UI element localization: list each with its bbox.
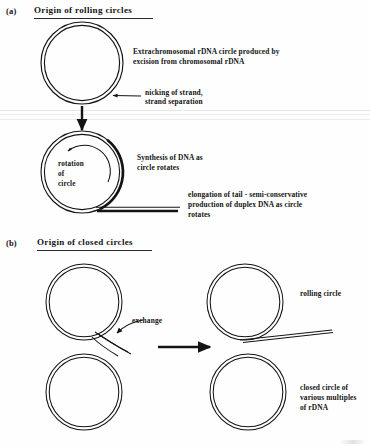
panel-a-heading-rule: [34, 18, 153, 19]
panel-b-heading: Origin of closed circles: [37, 237, 133, 248]
closed-circle-lower-left: [46, 354, 122, 430]
rolling-circle-product: [207, 264, 283, 340]
panel-b-tag: (b): [6, 238, 17, 248]
closed-circle-note-line1: closed circle of: [300, 383, 348, 393]
panel-a-heading: Origin of rolling circles: [34, 5, 132, 16]
closed-circle-upper-left: [46, 264, 122, 340]
strand-exchange-crossing: [92, 332, 131, 356]
nicking-pointer: [113, 96, 141, 97]
rdna-circle: [41, 22, 123, 104]
elongation-note-line2: production of duplex DNA as circle: [188, 200, 302, 210]
rolling-circle-tail: [240, 330, 333, 342]
rotation-note-line1: rotation: [58, 160, 84, 170]
panel-b-heading-rule: [37, 250, 152, 251]
panel-a-tag: (a): [6, 6, 16, 16]
exchange-note: exchange: [132, 316, 162, 326]
extrachromosomal-note-line1: Extrachromosomal rDNA circle produced by: [133, 47, 279, 57]
page-edge-artifact: [340, 440, 366, 444]
elongation-note-line1: elongation of tail - semi-conservative: [188, 190, 307, 200]
diagram-canvas: [0, 0, 370, 446]
closed-circle-product: [210, 354, 286, 430]
duplex-tail: [96, 207, 180, 211]
elongation-note-line3: rotates: [188, 210, 210, 220]
rolling-circle-note: rolling circle: [300, 289, 341, 299]
synthesis-note-line1: Synthesis of DNA as: [137, 153, 203, 163]
rotation-note-line2: of: [58, 170, 64, 180]
closed-circle-note-line3: of rDNA: [300, 403, 328, 413]
nicking-note-line2: strand separation: [145, 97, 203, 107]
extrachromosomal-note-line2: excision from chromosomal rDNA: [133, 57, 245, 67]
rotation-note-line3: circle: [58, 180, 76, 190]
closed-circle-note-line2: various multiples: [300, 393, 356, 403]
synthesis-note-line2: circle rotates: [137, 163, 179, 173]
figure-page: (a) Origin of rolling circles Extrachrom…: [0, 0, 370, 446]
